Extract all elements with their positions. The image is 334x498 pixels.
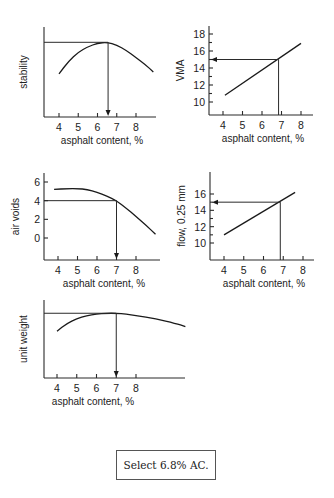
air-voids-y-tick-label: 4 <box>34 195 40 207</box>
vma-y-tick-label: 10 <box>193 96 205 108</box>
flow-y-tick-label: 14 <box>194 204 206 216</box>
air-voids-x-tick-label: 8 <box>133 264 139 276</box>
vma-series-line <box>225 43 301 95</box>
unit-weight-x-axis-title: asphalt content, % <box>52 396 134 407</box>
vma-y-tick-label: 16 <box>193 45 205 57</box>
unit-weight-x-tick-label: 4 <box>54 382 60 394</box>
flow-x-tick-label: 7 <box>280 264 286 276</box>
flow-x-tick-label: 6 <box>261 264 267 276</box>
flow-x-tick-label: 4 <box>221 264 227 276</box>
air-voids-x-tick-label: 5 <box>75 264 81 276</box>
design-charts: 45678asphalt content, %stability45678101… <box>0 0 334 498</box>
air-voids-y-tick-label: 2 <box>34 213 40 225</box>
flow-y-tick-label: 16 <box>194 188 206 200</box>
stability-arrow-down-icon <box>106 110 111 116</box>
stability-y-axis-title: stability <box>18 55 29 88</box>
unit-weight-x-tick-label: 6 <box>94 382 100 394</box>
air-voids-x-tick-label: 7 <box>114 264 120 276</box>
unit-weight-y-axis-title: unit weight <box>18 315 29 363</box>
vma-y-axis-title: VMA <box>175 59 186 81</box>
unit-weight-series-line <box>57 313 185 331</box>
vma-arrow-left-icon <box>211 57 217 62</box>
air-voids-x-tick-label: 4 <box>55 264 61 276</box>
stability-x-tick-label: 6 <box>95 121 101 133</box>
flow-y-axis-title: flow, 0.25 mm <box>176 185 187 247</box>
stability-x-tick-label: 7 <box>114 121 120 133</box>
flow-x-tick-label: 8 <box>300 264 306 276</box>
flow-series-line <box>224 192 295 234</box>
air-voids-y-axis-title: air voids <box>10 198 21 235</box>
flow-x-tick-label: 5 <box>241 264 247 276</box>
flow-y-tick-label: 12 <box>194 221 206 233</box>
vma-x-tick-label: 6 <box>259 119 265 131</box>
vma-y-tick-label: 12 <box>193 79 205 91</box>
selection-note: Select 6.8% AC. <box>116 450 216 480</box>
vma-x-tick-label: 4 <box>220 119 226 131</box>
vma-y-tick-label: 14 <box>193 62 205 74</box>
unit-weight-arrow-down-icon <box>114 371 119 377</box>
vma-x-axis-title: asphalt content, % <box>222 133 304 144</box>
air-voids-x-tick-label: 6 <box>94 264 100 276</box>
flow-y-tick-label: 10 <box>194 237 206 249</box>
unit-weight-x-tick-label: 5 <box>74 382 80 394</box>
vma-x-tick-label: 5 <box>240 119 246 131</box>
vma-x-tick-label: 8 <box>298 119 304 131</box>
stability-x-tick-label: 5 <box>75 121 81 133</box>
stability-x-tick-label: 4 <box>56 121 62 133</box>
stability-series-line <box>59 43 153 74</box>
vma-y-tick-label: 18 <box>193 28 205 40</box>
air-voids-y-tick-label: 6 <box>34 176 40 188</box>
unit-weight-x-tick-label: 7 <box>113 382 119 394</box>
flow-arrow-left-icon <box>212 200 218 205</box>
stability-x-axis-title: asphalt content, % <box>61 135 143 146</box>
flow-x-axis-title: asphalt content, % <box>223 278 305 289</box>
air-voids-arrow-down-icon <box>114 253 119 259</box>
air-voids-x-axis-title: asphalt content, % <box>63 278 145 289</box>
air-voids-y-tick-label: 0 <box>34 232 40 244</box>
stability-x-tick-label: 8 <box>133 121 139 133</box>
vma-x-tick-label: 7 <box>279 119 285 131</box>
unit-weight-x-tick-label: 8 <box>133 382 139 394</box>
air-voids-series-line <box>54 189 155 235</box>
